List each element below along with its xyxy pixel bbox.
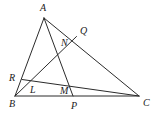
point-label-L: L [30, 85, 36, 95]
point-label-N: N [61, 38, 68, 48]
geometry-canvas [0, 0, 159, 123]
point-label-P: P [71, 101, 77, 111]
point-label-A: A [40, 3, 46, 13]
point-label-B: B [9, 99, 15, 109]
point-label-M: M [60, 86, 68, 96]
point-label-C: C [143, 98, 150, 108]
point-label-R: R [9, 73, 15, 83]
geometry-figure: A Q N R L M B P C [0, 0, 159, 123]
point-label-Q: Q [80, 26, 87, 36]
